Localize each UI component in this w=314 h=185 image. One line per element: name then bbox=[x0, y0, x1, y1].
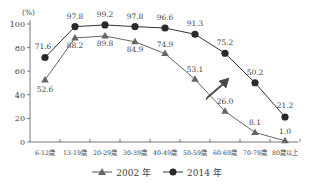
value-label: 21.2 bbox=[277, 101, 294, 110]
x-category-label: 6-12歳 bbox=[35, 148, 56, 156]
x-category-label: 40-49歳 bbox=[153, 148, 178, 156]
value-label: 53.1 bbox=[187, 65, 204, 74]
data-point bbox=[191, 31, 198, 38]
y-tick-label: 40 bbox=[15, 91, 25, 100]
value-label: 91.3 bbox=[187, 19, 204, 28]
legend-label-2002: 2002 年 bbox=[116, 166, 151, 179]
value-label: 99.2 bbox=[97, 10, 114, 19]
data-point bbox=[221, 50, 228, 57]
data-point bbox=[251, 79, 258, 86]
value-label: 1.0 bbox=[279, 127, 291, 136]
value-label: 88.2 bbox=[67, 41, 84, 50]
x-category-label: 13-19歳 bbox=[63, 148, 88, 156]
data-point bbox=[71, 23, 78, 30]
line-chart: (%)0204060801006-12歳13-19歳20-29歳30-39歳40… bbox=[0, 0, 314, 185]
value-label: 71.6 bbox=[35, 42, 52, 51]
data-point bbox=[101, 21, 108, 28]
circle-marker-icon bbox=[163, 167, 183, 177]
x-category-label: 20-29歳 bbox=[93, 148, 118, 156]
y-tick-label: 80 bbox=[15, 44, 25, 53]
value-label: 84.9 bbox=[127, 45, 144, 54]
data-point bbox=[131, 23, 138, 30]
y-axis-unit: (%) bbox=[22, 8, 35, 17]
value-label: 96.6 bbox=[157, 13, 174, 22]
data-point bbox=[251, 128, 259, 135]
legend-item-2002: 2002 年 bbox=[92, 166, 151, 179]
triangle-marker-icon bbox=[92, 167, 112, 177]
value-label: 52.6 bbox=[37, 85, 54, 94]
data-point bbox=[101, 32, 109, 39]
value-label: 26.0 bbox=[217, 97, 234, 106]
value-label: 74.9 bbox=[157, 40, 174, 49]
y-tick-label: 0 bbox=[20, 138, 25, 147]
value-label: 8.1 bbox=[249, 118, 261, 127]
data-point bbox=[71, 34, 79, 41]
y-tick-label: 60 bbox=[15, 67, 25, 76]
value-label: 50.2 bbox=[247, 68, 264, 77]
value-label: 89.8 bbox=[97, 39, 114, 48]
x-category-label: 50-59歳 bbox=[183, 148, 208, 156]
x-category-label: 60-69歳 bbox=[213, 148, 238, 156]
value-label: 97.8 bbox=[127, 12, 144, 21]
x-category-label: 30-39歳 bbox=[123, 148, 148, 156]
x-category-label: 70-79歳 bbox=[243, 148, 268, 156]
data-point bbox=[41, 54, 48, 61]
value-label: 97.8 bbox=[67, 12, 84, 21]
legend-label-2014: 2014 年 bbox=[187, 166, 222, 179]
y-tick-label: 100 bbox=[10, 20, 25, 29]
data-point bbox=[161, 24, 168, 31]
x-category-label: 80歳以上 bbox=[272, 148, 298, 156]
value-label: 75.2 bbox=[217, 38, 234, 47]
y-tick-label: 20 bbox=[15, 114, 25, 123]
data-point bbox=[281, 113, 288, 120]
legend: 2002 年 2014 年 bbox=[0, 162, 314, 182]
legend-item-2014: 2014 年 bbox=[163, 166, 222, 179]
data-point bbox=[191, 75, 199, 82]
